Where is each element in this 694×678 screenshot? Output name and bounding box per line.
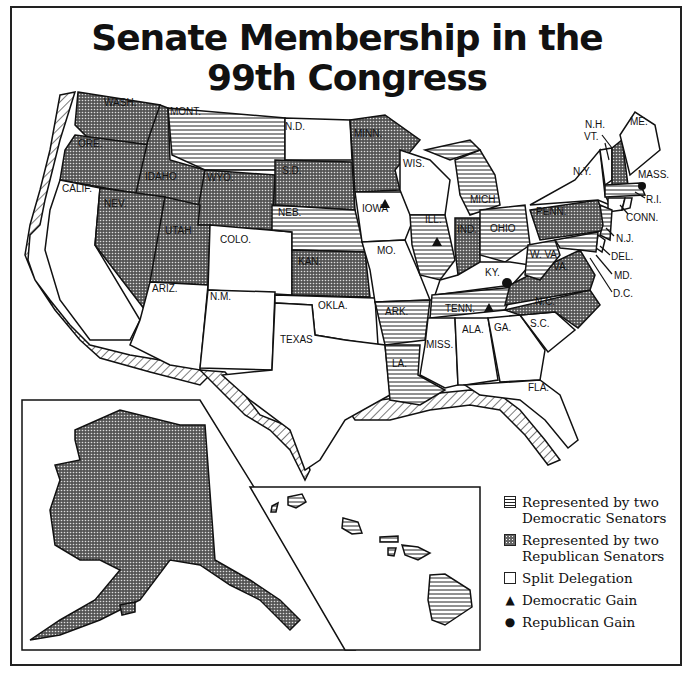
state-mich[interactable] (455, 150, 500, 215)
legend-item-split: Split Delegation (504, 570, 684, 586)
svg-text:MISS.: MISS. (426, 339, 453, 350)
svg-text:WIS.: WIS. (403, 158, 425, 169)
legend-item-dem-gain: ▲ Democratic Gain (504, 592, 684, 608)
svg-text:ARK.: ARK. (385, 306, 408, 317)
svg-text:NEV.: NEV. (104, 198, 126, 209)
svg-text:OHIO: OHIO (490, 223, 516, 234)
svg-text:TENN.: TENN. (445, 303, 475, 314)
state-ny[interactable] (530, 150, 610, 205)
rep-gain-icon-ky (502, 278, 512, 288)
svg-text:ILL.: ILL. (425, 214, 442, 225)
svg-text:N.J.: N.J. (616, 233, 634, 244)
svg-text:S.D.: S.D. (282, 165, 301, 176)
svg-text:COLO.: COLO. (220, 234, 251, 245)
legend-label: Represented by two (522, 532, 659, 548)
svg-text:VA.: VA. (553, 261, 568, 272)
svg-text:CALIF.: CALIF. (62, 183, 92, 194)
svg-text:R.I.: R.I. (646, 194, 662, 205)
island-lanai[interactable] (388, 548, 396, 556)
svg-text:N.Y.: N.Y. (573, 166, 591, 177)
legend-label: Split Delegation (522, 570, 633, 586)
svg-text:N.M.: N.M. (210, 291, 231, 302)
svg-text:NEB.: NEB. (278, 207, 301, 218)
island-molokai[interactable] (380, 536, 398, 542)
rep-swatch-icon (504, 534, 516, 546)
rep-gain-icon-mass (638, 182, 646, 190)
svg-text:FLA.: FLA. (528, 382, 549, 393)
svg-text:S.C.: S.C. (530, 318, 549, 329)
svg-text:ME.: ME. (630, 116, 648, 127)
legend-label: Republican Senators (522, 548, 664, 564)
svg-text:DEL.: DEL. (611, 251, 633, 262)
legend-label: Democratic Gain (522, 592, 637, 608)
svg-text:MINN.: MINN. (354, 128, 382, 139)
svg-text:N.H.: N.H. (585, 119, 605, 130)
legend-label: Republican Gain (522, 614, 635, 630)
svg-text:D.C.: D.C. (613, 288, 633, 299)
svg-text:MD.: MD. (614, 270, 632, 281)
svg-text:MO.: MO. (377, 245, 396, 256)
svg-text:MICH: MICH (470, 194, 496, 205)
svg-text:PENN.: PENN. (536, 206, 567, 217)
svg-text:WYO.: WYO. (207, 172, 234, 183)
svg-text:VT.: VT. (584, 131, 598, 142)
legend-item-dem: Represented by twoDemocratic Senators (504, 494, 684, 526)
svg-text:KY.: KY. (485, 267, 500, 278)
state-nm[interactable] (200, 290, 275, 370)
svg-text:IDAHO: IDAHO (145, 171, 177, 182)
svg-text:CONN.: CONN. (626, 212, 658, 223)
svg-text:ARIZ.: ARIZ. (152, 283, 178, 294)
map-legend: Represented by twoDemocratic Senators Re… (504, 494, 684, 636)
svg-text:KAN.: KAN. (298, 256, 321, 267)
svg-text:OKLA.: OKLA. (318, 300, 347, 311)
svg-text:ORE.: ORE. (78, 138, 102, 149)
legend-item-rep: Represented by twoRepublican Senators (504, 532, 684, 564)
svg-text:N.C.: N.C. (535, 296, 555, 307)
legend-label: Democratic Senators (522, 510, 666, 526)
svg-text:ALA.: ALA. (462, 324, 484, 335)
svg-text:N.D.: N.D. (285, 121, 305, 132)
state-mont[interactable] (168, 108, 285, 170)
svg-text:IND.: IND. (457, 224, 477, 235)
svg-text:TEXAS: TEXAS (280, 334, 313, 345)
svg-text:GA.: GA. (494, 322, 511, 333)
svg-text:W. VA.: W. VA. (530, 249, 560, 260)
circle-icon: ● (504, 614, 516, 630)
legend-label: Represented by two (522, 494, 659, 510)
dem-swatch-icon (504, 496, 516, 508)
svg-text:WASH.: WASH. (104, 97, 136, 108)
svg-text:UTAH: UTAH (165, 225, 191, 236)
svg-text:MONT.: MONT. (170, 106, 201, 117)
triangle-icon: ▲ (504, 592, 516, 608)
svg-text:LA.: LA. (392, 358, 407, 369)
split-swatch-icon (504, 572, 516, 584)
legend-item-rep-gain: ● Republican Gain (504, 614, 684, 630)
svg-text:MASS.: MASS. (638, 169, 669, 180)
